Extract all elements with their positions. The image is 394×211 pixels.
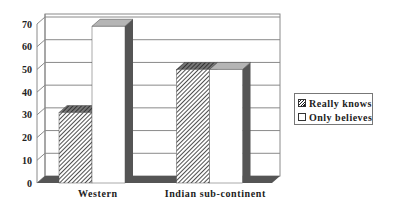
y-axis: 010203040506070 (22, 14, 45, 189)
svg-text:10: 10 (22, 155, 32, 166)
legend-label: Only believes (309, 112, 372, 123)
svg-text:0: 0 (27, 178, 32, 189)
svg-text:30: 30 (22, 109, 32, 120)
legend: Really knows Only believes (294, 93, 373, 125)
hatched-swatch-icon (298, 99, 306, 107)
legend-label: Really knows (309, 98, 372, 109)
svg-text:20: 20 (22, 132, 32, 143)
category-label: Indian sub-continent (165, 188, 266, 199)
white-swatch-icon (298, 113, 306, 121)
bar-only-believes (210, 62, 251, 183)
bar-only-believes (92, 19, 133, 183)
svg-text:50: 50 (22, 64, 32, 75)
category-label: Western (78, 188, 118, 199)
legend-item-really-knows: Really knows (298, 96, 372, 110)
svg-text:70: 70 (22, 19, 32, 30)
svg-text:60: 60 (22, 41, 32, 52)
svg-text:40: 40 (22, 87, 32, 98)
x-axis-labels: WesternIndian sub-continent (78, 188, 266, 199)
legend-item-only-believes: Only believes (298, 110, 372, 124)
